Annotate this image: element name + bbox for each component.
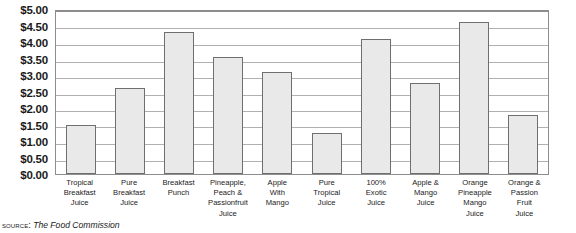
bar-slot — [154, 12, 203, 174]
x-axis-category-label: 100%ExoticJuice — [351, 178, 400, 220]
x-axis-category-label-line: Punch — [155, 188, 202, 198]
x-axis-category-label-line: Passionfruit — [204, 198, 251, 208]
bar-slot — [253, 12, 302, 174]
y-axis-tick-label: $2.00 — [0, 104, 48, 115]
x-axis-category-label-line: Orange & — [501, 178, 548, 188]
y-axis-tick-label: $4.00 — [0, 38, 48, 49]
x-axis-category-label-line: With — [254, 188, 301, 198]
source-text: The Food Commission — [33, 220, 119, 230]
x-axis-category-label: TropicalBreakfastJuice — [55, 178, 104, 220]
y-axis-tick-label: $5.00 — [0, 5, 48, 16]
x-axis-category-label-line: Orange — [451, 178, 498, 188]
bar — [508, 115, 538, 174]
x-axis-category-label: PureBreakfastJuice — [104, 178, 153, 220]
source-note: Source: The Food Commission — [2, 220, 120, 231]
x-axis-category-label-line: Pure — [303, 178, 350, 188]
x-axis-category-labels: TropicalBreakfastJuicePureBreakfastJuice… — [55, 178, 549, 220]
bar-slot — [499, 12, 548, 174]
bar-slot — [351, 12, 400, 174]
y-axis-tick-label: $4.50 — [0, 22, 48, 33]
bar — [312, 133, 342, 174]
y-axis-tick-label: $2.50 — [0, 88, 48, 99]
bar — [115, 88, 145, 174]
bar-slot — [56, 12, 105, 174]
x-axis-category-label-line: Apple & — [402, 178, 449, 188]
bar — [66, 125, 96, 175]
x-axis-category-label-line: Tropical — [56, 178, 103, 188]
x-axis-category-label-line: Juice — [451, 209, 498, 219]
x-axis-category-label-line: Juice — [204, 209, 251, 219]
y-axis: $5.00$4.50$4.00$3.50$3.00$2.50$2.00$1.50… — [0, 10, 52, 175]
bar — [262, 72, 292, 174]
bar — [459, 22, 489, 174]
x-axis-category-label-line: Pure — [105, 178, 152, 188]
x-axis-category-label-line: Breakfast — [105, 188, 152, 198]
x-axis-category-label-line: Juice — [501, 209, 548, 219]
bar-slot — [204, 12, 253, 174]
x-axis-category-label-line: Breakfast — [56, 188, 103, 198]
y-axis-tick-label: $1.50 — [0, 121, 48, 132]
bar-chart-figure: $5.00$4.50$4.00$3.50$3.00$2.50$2.00$1.50… — [0, 0, 576, 233]
bar-series — [56, 12, 548, 174]
bar — [213, 57, 243, 174]
bar-slot — [400, 12, 449, 174]
x-axis-category-label-line: Peach & — [204, 188, 251, 198]
x-axis-category-label-line: Mango — [254, 198, 301, 208]
bar-slot — [302, 12, 351, 174]
x-axis-category-label-line: 100% — [352, 178, 399, 188]
x-axis-category-label-line: Juice — [352, 198, 399, 208]
bar-slot — [105, 12, 154, 174]
x-axis-category-label-line: Juice — [402, 198, 449, 208]
source-label: Source: — [2, 220, 31, 230]
bar — [410, 83, 440, 174]
x-axis-category-label-line: Pineapple, — [204, 178, 251, 188]
x-axis-category-label-line: Mango — [402, 188, 449, 198]
bar — [361, 39, 391, 174]
x-axis-category-label-line: Exotic — [352, 188, 399, 198]
x-axis-category-label: AppleWithMango — [253, 178, 302, 220]
x-axis-category-label-line: Apple — [254, 178, 301, 188]
x-axis-category-label-line: Juice — [56, 198, 103, 208]
x-axis-category-label-line: Mango — [451, 198, 498, 208]
x-axis-category-label-line: Breakfast — [155, 178, 202, 188]
plot-area — [55, 10, 549, 175]
y-axis-tick-label: $1.00 — [0, 137, 48, 148]
y-axis-tick-label: $0.50 — [0, 154, 48, 165]
x-axis-category-label: OrangePineappleMangoJuice — [450, 178, 499, 220]
y-axis-tick-label: $0.00 — [0, 170, 48, 181]
x-axis-category-label-line: Passion — [501, 188, 548, 198]
x-axis-category-label: BreakfastPunch — [154, 178, 203, 220]
x-axis-category-label-line: Juice — [105, 198, 152, 208]
x-axis-category-label: Orange &PassionFruitJuice — [500, 178, 549, 220]
bar-slot — [450, 12, 499, 174]
y-axis-tick-label: $3.50 — [0, 55, 48, 66]
x-axis-category-label-line: Tropical — [303, 188, 350, 198]
x-axis-category-label: PureTropicalJuice — [302, 178, 351, 220]
x-axis-category-label-line: Juice — [303, 198, 350, 208]
x-axis-category-label: Pineapple,Peach &PassionfruitJuice — [203, 178, 252, 220]
bar — [164, 32, 194, 174]
x-axis-category-label: Apple &MangoJuice — [401, 178, 450, 220]
y-axis-tick-label: $3.00 — [0, 71, 48, 82]
x-axis-category-label-line: Pineapple — [451, 188, 498, 198]
x-axis-category-label-line: Fruit — [501, 198, 548, 208]
